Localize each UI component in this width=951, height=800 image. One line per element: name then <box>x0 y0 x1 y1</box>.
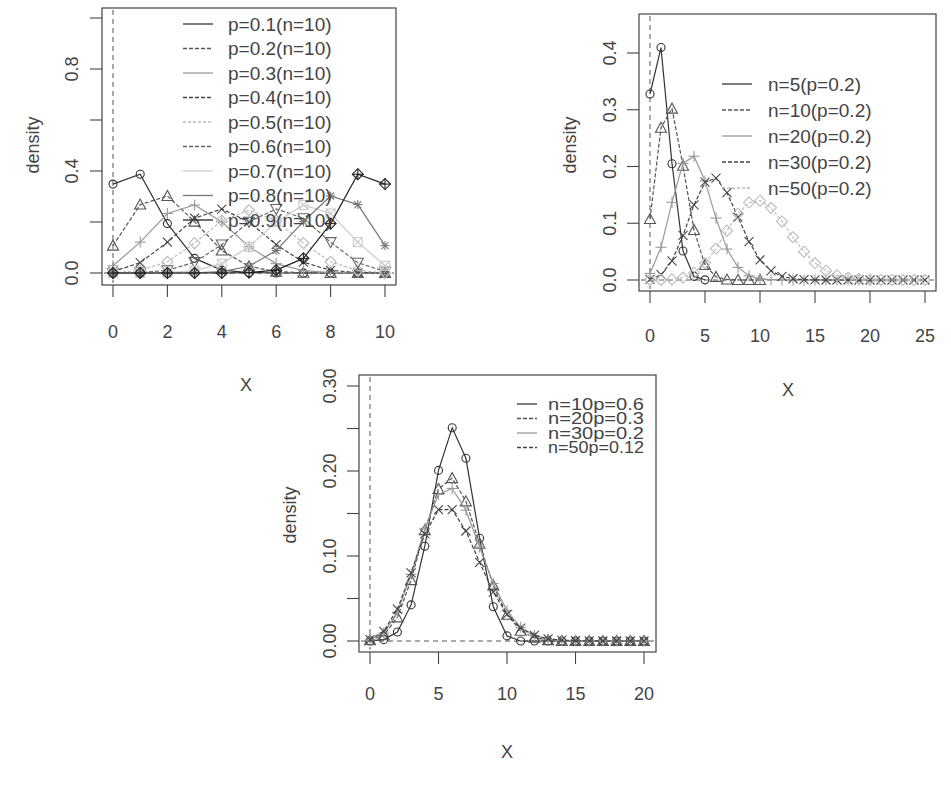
diamond-plus-marker-icon <box>352 169 363 180</box>
plot-binomial-varying-n: 05101520250.00.10.20.30.4densityXn=5(p=0… <box>560 14 936 400</box>
plus-marker-icon <box>645 268 656 279</box>
y-axis-title: density <box>560 116 580 173</box>
plus-marker-icon <box>689 151 700 162</box>
legend: n=5(p=0.2)n=10(p=0.2)n=20(p=0.2)n=30(p=0… <box>722 74 872 199</box>
cross-marker-icon <box>734 213 743 222</box>
series-n-50p-0-12 <box>366 505 649 645</box>
y-axis-title: density <box>280 486 300 543</box>
x-tick-label: 6 <box>271 322 281 342</box>
figure: 02468100.00.40.8densityXp=0.1(n=10)p=0.2… <box>0 0 951 800</box>
diamond-marker-icon <box>766 202 777 213</box>
plus-marker-icon <box>700 175 711 186</box>
cross-marker-icon <box>767 266 776 275</box>
legend-entry-label: p=0.8(n=10) <box>228 185 332 206</box>
plus-marker-icon <box>755 273 766 284</box>
y-tick-label: 0.4 <box>600 40 620 65</box>
cross-marker-icon <box>461 527 470 536</box>
legend-entry-label: p=0.2(n=10) <box>228 38 332 59</box>
cross-marker-icon <box>712 174 721 183</box>
x-tick-label: 4 <box>217 322 227 342</box>
x-tick-label: 5 <box>433 684 443 704</box>
cross-marker-icon <box>217 205 226 214</box>
plus-marker-icon <box>722 244 733 255</box>
series-n-50-p-0-2- <box>645 195 931 285</box>
cross-marker-icon <box>745 237 754 246</box>
plus-marker-icon <box>788 275 799 286</box>
x-axis: 05101520 <box>365 652 654 704</box>
x-axis-title: X <box>501 742 513 762</box>
series-n-20p-0-3 <box>365 473 650 646</box>
y-tick-label: 0.0 <box>62 260 82 285</box>
legend-entry-label: n=50p=0.12 <box>548 438 644 457</box>
y-axis: 0.00.10.20.30.4 <box>600 40 639 292</box>
cross-marker-icon <box>163 238 172 247</box>
legend-entry-label: p=0.9(n=10) <box>228 210 332 231</box>
diamond-marker-icon <box>711 243 722 254</box>
x-tick-label: 8 <box>326 322 336 342</box>
x-axis-title: X <box>782 380 794 400</box>
cross-marker-icon <box>475 558 484 567</box>
cross-marker-icon <box>756 255 765 264</box>
legend: p=0.1(n=10)p=0.2(n=10)p=0.3(n=10)p=0.4(n… <box>183 14 332 231</box>
legend-entry-label: n=10(p=0.2) <box>768 100 872 121</box>
plot-binomial-poisson-approx: 051015200.000.100.200.30densityXn=10p=0.… <box>280 368 656 762</box>
legend-entry-label: p=0.6(n=10) <box>228 136 332 157</box>
x-axis: 0510152025 <box>645 291 935 346</box>
x-tick-label: 10 <box>750 326 770 346</box>
series-n-30p-0-2 <box>365 483 650 647</box>
legend-entry-label: p=0.3(n=10) <box>228 63 332 84</box>
y-tick-label: 0.00 <box>320 623 340 658</box>
y-axis-title: density <box>23 116 43 173</box>
cross-marker-icon <box>448 505 457 514</box>
diamond-plus-marker-icon <box>298 253 309 264</box>
plus-marker-icon <box>189 199 200 210</box>
y-tick-label: 0.10 <box>320 538 340 573</box>
diamond-plus-marker-icon <box>380 179 391 190</box>
legend-entry-label: p=0.1(n=10) <box>228 14 332 35</box>
y-axis: 0.000.100.200.30 <box>320 368 359 658</box>
y-tick-label: 0.20 <box>320 453 340 488</box>
plus-marker-icon <box>711 213 722 224</box>
legend: n=10p=0.6n=20p=0.3n=30p=0.2n=50p=0.12 <box>517 395 644 458</box>
x-tick-label: 10 <box>497 684 517 704</box>
diamond-marker-icon <box>678 272 689 283</box>
legend-entry-label: p=0.7(n=10) <box>228 161 332 182</box>
x-tick-label: 2 <box>162 322 172 342</box>
plus-marker-icon <box>733 262 744 273</box>
y-tick-label: 0.8 <box>62 56 82 81</box>
asterisk-marker-icon <box>353 200 362 209</box>
diamond-marker-icon <box>810 258 821 269</box>
legend-entry-label: p=0.5(n=10) <box>228 112 332 133</box>
legend-entry-label: p=0.4(n=10) <box>228 87 332 108</box>
plus-marker-icon <box>474 541 485 552</box>
asterisk-marker-icon <box>381 241 390 250</box>
y-axis: 0.00.40.8 <box>62 18 102 286</box>
cross-marker-icon <box>723 188 732 197</box>
cross-marker-icon <box>136 258 145 267</box>
x-tick-label: 15 <box>805 326 825 346</box>
y-tick-label: 0.4 <box>62 158 82 183</box>
y-tick-label: 0.0 <box>600 267 620 292</box>
x-tick-label: 20 <box>860 326 880 346</box>
legend-entry-label: n=50(p=0.2) <box>768 178 872 199</box>
x-tick-label: 0 <box>108 322 118 342</box>
x-tick-label: 5 <box>700 326 710 346</box>
y-tick-label: 0.1 <box>600 211 620 236</box>
cross-marker-icon <box>679 231 688 240</box>
x-tick-label: 0 <box>645 326 655 346</box>
x-tick-label: 10 <box>375 322 395 342</box>
y-tick-label: 0.2 <box>600 154 620 179</box>
x-axis-title: X <box>240 375 252 395</box>
diamond-marker-icon <box>189 238 200 249</box>
diamond-marker-icon <box>799 246 810 257</box>
x-tick-label: 20 <box>634 684 654 704</box>
y-tick-label: 0.3 <box>600 97 620 122</box>
plus-marker-icon <box>447 483 458 494</box>
plot-binomial-varying-p: 02468100.00.40.8densityXp=0.1(n=10)p=0.2… <box>23 8 396 395</box>
diamond-marker-icon <box>722 225 733 236</box>
y-tick-label: 0.30 <box>320 368 340 403</box>
triangle-marker-icon <box>162 190 173 200</box>
x-tick-label: 0 <box>365 684 375 704</box>
asterisk-marker-icon <box>272 246 281 255</box>
cross-marker-icon <box>690 200 699 209</box>
